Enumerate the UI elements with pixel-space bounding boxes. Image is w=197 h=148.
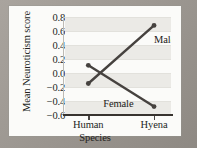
x-axis-line (63, 114, 173, 116)
figure-root: Mean Neuroticism score 0.80.60.40.20.0−0… (0, 0, 197, 148)
x-tick-label: Hyena (141, 119, 168, 130)
data-point-male (152, 23, 157, 28)
plot-area: MaleFemale (65, 17, 171, 115)
data-point-female (152, 104, 157, 109)
series-label-female: Female (103, 98, 133, 109)
x-tick-label: Human (73, 119, 103, 130)
chart-card: Mean Neuroticism score 0.80.60.40.20.0−0… (9, 6, 181, 136)
data-point-female (86, 63, 91, 68)
y-axis-tick-labels: 0.80.60.40.20.0−0.2−0.4−0.6 (29, 18, 65, 114)
x-axis-title: Species (9, 132, 181, 143)
data-point-male (86, 81, 91, 86)
series-line-male (88, 25, 154, 83)
series-label-male: Male (154, 34, 171, 45)
